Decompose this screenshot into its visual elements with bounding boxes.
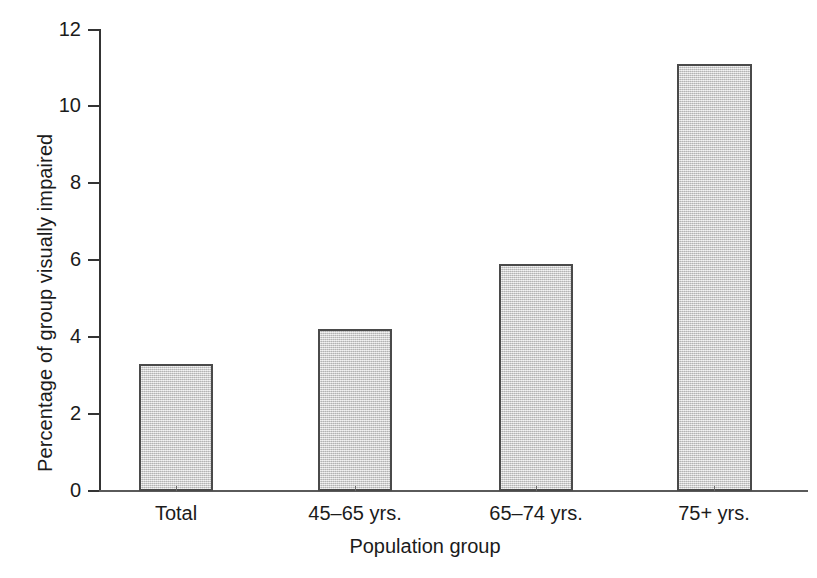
bar-75-plus-yrs[interactable] (677, 64, 752, 491)
bar-chart: Percentage of group visually impaired 0 … (0, 0, 817, 578)
y-tick-label-0: 0 (37, 480, 81, 500)
y-tick-label-2: 2 (37, 403, 81, 423)
y-axis-title: Percentage of group visually impaired (30, 0, 60, 472)
x-tick-65-74-yrs (536, 486, 537, 491)
x-axis-title: Population group (225, 534, 625, 558)
y-tick-label-8: 8 (37, 172, 81, 192)
y-tick-label-6: 6 (37, 249, 81, 269)
y-tick-label-12: 12 (37, 19, 81, 39)
x-tick-45-65-yrs (355, 486, 356, 491)
x-tick-label-45-65-yrs: 45–65 yrs. (255, 501, 455, 525)
y-tick-4 (88, 336, 99, 338)
x-tick-total (176, 486, 177, 491)
y-tick-label-10: 10 (37, 95, 81, 115)
bar-45-65-yrs[interactable] (318, 329, 392, 491)
y-tick-2 (88, 413, 99, 415)
y-tick-6 (88, 259, 99, 261)
y-axis-line (99, 29, 101, 492)
x-tick-label-65-74-yrs: 65–74 yrs. (436, 501, 636, 525)
bar-65-74-yrs[interactable] (499, 264, 573, 491)
x-tick-label-total: Total (76, 501, 276, 525)
y-tick-10 (88, 105, 99, 107)
x-tick-75-plus-yrs (714, 486, 715, 491)
y-tick-8 (88, 182, 99, 184)
y-tick-12 (88, 29, 99, 31)
bar-total[interactable] (139, 364, 213, 491)
x-tick-label-75-plus-yrs: 75+ yrs. (614, 501, 814, 525)
y-tick-label-4: 4 (37, 326, 81, 346)
y-tick-0 (88, 490, 99, 492)
